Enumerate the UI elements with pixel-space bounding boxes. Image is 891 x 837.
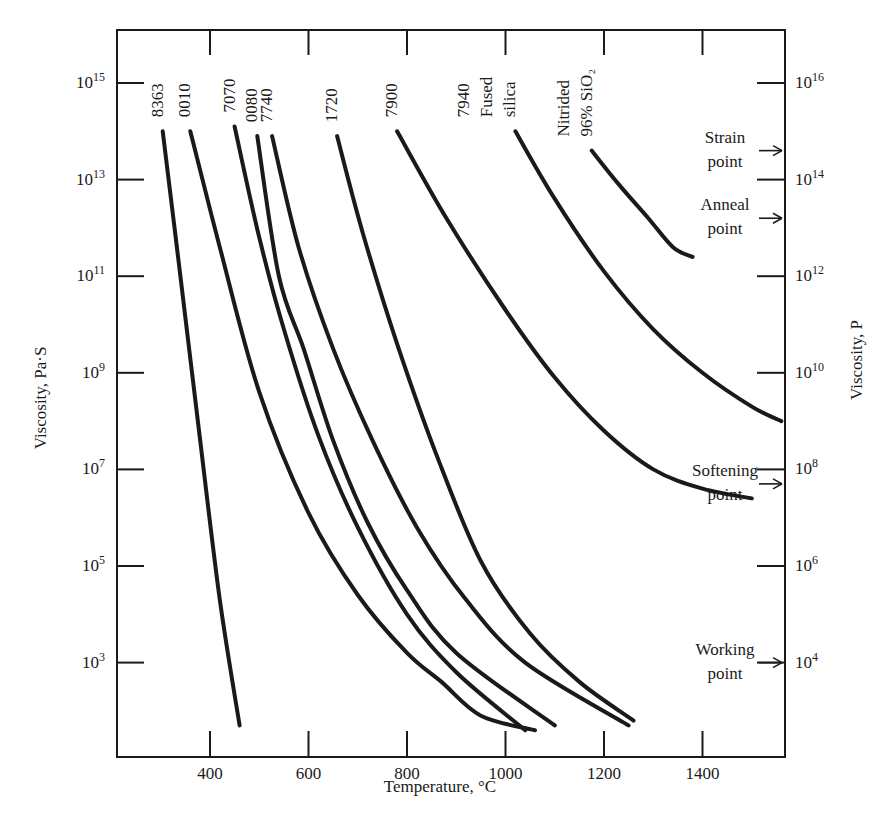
curve-label: 96% SiO₂ [577,69,596,137]
y-axis-title-right: Viscosity, P [847,320,866,400]
reference-point-label: point [708,485,743,504]
curve-label: silica [500,81,519,117]
curve-nitrided-96-sio2 [592,151,693,257]
curve-8363 [163,131,240,725]
y-tick-label-left: 1015 [76,70,105,92]
y-tick-label-left: 105 [82,553,105,575]
y-tick-label-right: 1010 [795,360,824,382]
y-tick-label-left: 1013 [76,167,105,189]
reference-point-annotations: StrainpointAnnealpointSofteningpointWork… [692,128,782,683]
reference-point-label: Anneal [700,195,749,214]
y-tick-label-right: 104 [795,650,818,672]
reference-point-label: Working [695,640,755,659]
reference-point-label: point [708,152,743,171]
curve-label: 0010 [175,83,194,117]
curve-label: 8363 [148,83,167,117]
x-tick-label: 1400 [686,764,720,783]
curve-7900 [397,131,752,498]
y-tick-label-right: 1012 [795,263,824,285]
x-tick-label: 600 [296,764,322,783]
curve-label: 7070 [220,78,239,112]
curves [163,127,782,731]
curve-label: 7740 [257,88,276,122]
x-tick-label: 400 [197,764,223,783]
reference-point-label: point [708,219,743,238]
x-axis-title: Temperature, °C [384,777,496,796]
curve-7070 [235,127,526,731]
y-tick-label-right: 1016 [795,70,824,92]
reference-point-label: point [708,664,743,683]
curve-0010 [190,131,535,730]
y-tick-label-left: 107 [82,456,105,478]
viscosity-temperature-chart: 4006008001000120014001015101310111091071… [0,0,891,837]
y-tick-label-left: 1011 [76,263,105,285]
y-tick-label-right: 108 [795,456,818,478]
curve-label: Fused [477,76,496,117]
curve-0080 [257,136,555,725]
curve-label: 7900 [382,83,401,117]
curve-label: 7940 [454,83,473,117]
y-tick-label-left: 103 [82,650,105,672]
y-tick-label-right: 1014 [795,167,824,189]
curve-labels: 83630010707000807740172079007940Fusedsil… [148,69,596,137]
reference-point-label: Strain [705,128,746,147]
x-tick-label: 1200 [587,764,621,783]
curve-1720 [337,136,633,721]
y-axis-title-left: Viscosity, Pa·S [31,347,50,450]
y-tick-label-right: 106 [795,553,818,575]
reference-point-label: Softening [692,461,759,480]
curve-label: Nitrided [554,79,573,136]
y-tick-label-left: 109 [82,360,105,382]
curve-label: 1720 [322,88,341,122]
